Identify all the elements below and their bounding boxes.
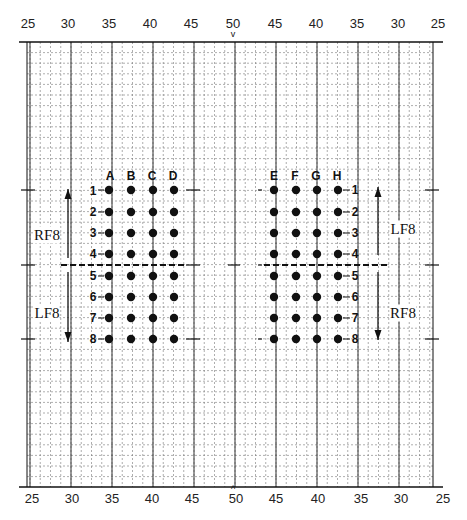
grid-paper — [0, 0, 467, 520]
left-row-label-6: 6 — [90, 290, 97, 304]
dot-A7 — [105, 314, 113, 322]
column-label-c: C — [148, 169, 157, 183]
dot-D2 — [170, 208, 178, 216]
dot-E4 — [270, 250, 278, 258]
dot-C4 — [149, 250, 157, 258]
dot-B4 — [127, 250, 135, 258]
left-row-label-7: 7 — [90, 311, 97, 325]
top-scale-label: 25 — [431, 16, 445, 31]
dot-D8 — [170, 335, 178, 343]
column-label-f: F — [291, 169, 298, 183]
column-label-b: B — [127, 169, 136, 183]
dot-G7 — [313, 314, 321, 322]
dot-A1 — [105, 186, 113, 194]
dot-D4 — [170, 250, 178, 258]
dot-H7 — [334, 314, 342, 322]
dot-E8 — [270, 335, 278, 343]
bottom-scale-label: 30 — [394, 491, 408, 506]
top-scale-label: 45 — [268, 16, 282, 31]
dot-E3 — [270, 229, 278, 237]
top-scale-label: 45 — [184, 16, 198, 31]
dot-H5 — [334, 272, 342, 280]
bottom-scale-label: 40 — [311, 491, 325, 506]
left-row-label-8: 8 — [90, 332, 97, 346]
arrow-down-left-head — [65, 332, 72, 342]
dot-D7 — [170, 314, 178, 322]
dot-H2 — [334, 208, 342, 216]
right-row-label-5: 5 — [352, 269, 359, 283]
dot-A8 — [105, 335, 113, 343]
dot-C6 — [149, 293, 157, 301]
dot-A3 — [105, 229, 113, 237]
left-row-label-5: 5 — [90, 269, 97, 283]
dot-H3 — [334, 229, 342, 237]
dot-A5 — [105, 272, 113, 280]
column-label-a: A — [106, 169, 115, 183]
dot-C7 — [149, 314, 157, 322]
dot-G5 — [313, 272, 321, 280]
right-row-label-3: 3 — [352, 226, 359, 240]
dot-E6 — [270, 293, 278, 301]
right-row-label-8: 8 — [352, 332, 359, 346]
dot-B2 — [127, 208, 135, 216]
dot-H8 — [334, 335, 342, 343]
dot-B3 — [127, 229, 135, 237]
arrow-up-right-head — [375, 187, 382, 197]
left-row-label-3: 3 — [90, 226, 97, 240]
left-row-label-4: 4 — [90, 247, 97, 261]
center-marker-bottom: ^ — [231, 484, 235, 494]
right-row-label-7: 7 — [352, 311, 359, 325]
dot-E2 — [270, 208, 278, 216]
dot-B6 — [127, 293, 135, 301]
dot-D6 — [170, 293, 178, 301]
bottom-scale-label: 25 — [25, 491, 39, 506]
dot-B7 — [127, 314, 135, 322]
dot-G2 — [313, 208, 321, 216]
dot-F6 — [292, 293, 300, 301]
bottom-scale-label: 35 — [105, 491, 119, 506]
dot-F2 — [292, 208, 300, 216]
right-row-label-2: 2 — [352, 205, 359, 219]
center-marker-top: v — [231, 29, 236, 39]
dot-C2 — [149, 208, 157, 216]
dot-H6 — [334, 293, 342, 301]
dot-F5 — [292, 272, 300, 280]
bottom-scale-label: 35 — [354, 491, 368, 506]
right-row-label-1: 1 — [352, 183, 359, 197]
dot-G4 — [313, 250, 321, 258]
left-upper-label: RF8 — [34, 227, 60, 244]
dot-G8 — [313, 335, 321, 343]
column-label-e: E — [270, 169, 278, 183]
bottom-scale-label: 30 — [65, 491, 79, 506]
dot-A4 — [105, 250, 113, 258]
bottom-scale-label: 25 — [436, 491, 450, 506]
dot-A6 — [105, 293, 113, 301]
dot-F4 — [292, 250, 300, 258]
top-scale-label: 40 — [143, 16, 157, 31]
dot-F7 — [292, 314, 300, 322]
column-label-d: D — [169, 169, 178, 183]
right-upper-label: LF8 — [390, 221, 415, 238]
bottom-scale-label: 45 — [269, 491, 283, 506]
left-row-label-2: 2 — [90, 205, 97, 219]
top-scale-label: 40 — [309, 16, 323, 31]
left-row-label-1: 1 — [90, 184, 97, 198]
dot-E7 — [270, 314, 278, 322]
dot-G1 — [313, 186, 321, 194]
dot-C8 — [149, 335, 157, 343]
dot-C3 — [149, 229, 157, 237]
top-scale-label: 30 — [61, 16, 75, 31]
top-scale-label: 25 — [21, 16, 35, 31]
top-scale-label: 35 — [102, 16, 116, 31]
dot-H4 — [334, 250, 342, 258]
dot-B8 — [127, 335, 135, 343]
top-scale-label: 35 — [350, 16, 364, 31]
dot-C5 — [149, 272, 157, 280]
dot-F8 — [292, 335, 300, 343]
dot-F3 — [292, 229, 300, 237]
bottom-scale-label: 45 — [185, 491, 199, 506]
dot-G3 — [313, 229, 321, 237]
dot-G6 — [313, 293, 321, 301]
right-row-label-4: 4 — [352, 247, 359, 261]
grid-diagram: 2530354045504540353025 25303540455045403… — [0, 0, 467, 520]
